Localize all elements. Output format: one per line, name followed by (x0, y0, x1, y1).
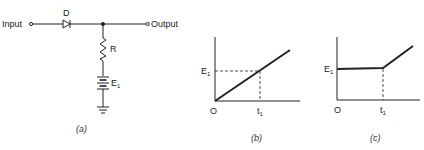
figure-canvas: Input Output D R E1 (a) E1 O t1 (b) E1 O… (0, 0, 424, 150)
output-line-c (337, 46, 413, 69)
e1-label-b: E1 (201, 66, 211, 77)
ramp-line-b (215, 50, 290, 101)
diode-icon (63, 20, 70, 28)
origin-label-b: O (210, 106, 217, 116)
output-terminal-icon (146, 22, 149, 25)
caption-a: (a) (76, 124, 87, 134)
graph-c (337, 37, 420, 100)
t1-label-c: t1 (380, 105, 387, 116)
graph-b (215, 37, 300, 101)
diode-label: D (63, 8, 70, 18)
input-terminal-icon (29, 22, 32, 25)
ground-icon (97, 107, 109, 113)
circuit-panel (29, 20, 149, 113)
caption-b: (b) (251, 133, 262, 143)
e1-label-c: E1 (324, 64, 334, 75)
caption-c: (c) (370, 133, 381, 143)
t1-label-b: t1 (257, 106, 264, 117)
battery-label: E1 (111, 78, 121, 89)
input-label: Input (2, 19, 23, 29)
battery-icon (97, 77, 109, 89)
origin-label-c: O (334, 105, 341, 115)
resistor-icon (100, 38, 106, 61)
output-label: Output (151, 19, 179, 29)
resistor-label: R (110, 44, 117, 54)
